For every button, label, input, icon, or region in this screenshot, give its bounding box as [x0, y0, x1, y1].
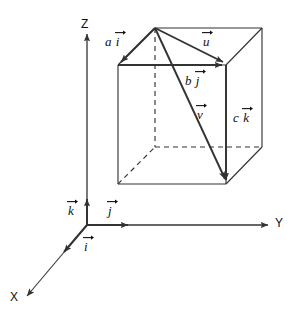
u-vector-label: u: [203, 30, 210, 48]
v-letter: v: [197, 108, 203, 121]
v-glyph: v: [197, 103, 203, 121]
i-hat-letter: i: [84, 240, 88, 253]
u-vector-arrow: [155, 28, 223, 62]
box-edge-bottom-right-diag: [226, 147, 262, 184]
a-i-glyph: i: [116, 30, 120, 48]
j-hat-label: j: [108, 199, 112, 217]
box-vector-arrows: [118, 28, 226, 180]
u-letter: u: [203, 35, 210, 48]
k-hat-label: k: [68, 199, 74, 217]
c-coefficient: c: [233, 110, 239, 125]
vector-diagram-figure: X Y Z k j i a: [0, 0, 298, 316]
k-hat-glyph: k: [68, 199, 74, 217]
i-hat-glyph: i: [84, 235, 88, 253]
c-k-letter: k: [243, 111, 249, 124]
box-edge-hidden-bottom-left-diag: [118, 147, 155, 184]
b-j-letter: j: [196, 74, 200, 87]
x-axis-label: X: [10, 291, 18, 303]
c-k-glyph: k: [243, 106, 249, 124]
u-glyph: u: [203, 30, 210, 48]
a-i-vector-arrow: [121, 28, 155, 62]
figure-canvas: [0, 0, 298, 316]
i-hat-label: i: [84, 235, 88, 253]
b-j-vector-label: b j: [185, 69, 199, 87]
a-coefficient: a: [105, 34, 112, 49]
z-axis-label: Z: [81, 18, 88, 30]
j-hat-letter: j: [108, 204, 112, 217]
c-k-vector-label: c k: [233, 106, 249, 124]
y-axis-label: Y: [275, 217, 283, 229]
k-hat-letter: k: [68, 204, 74, 217]
box-edge-top-right-diag: [226, 28, 262, 65]
a-i-vector-label: a i: [105, 30, 119, 48]
b-j-glyph: j: [196, 69, 200, 87]
v-vector-arrow: [155, 28, 225, 179]
a-i-letter: i: [116, 35, 120, 48]
coordinate-axes: [27, 34, 268, 296]
b-coefficient: b: [185, 73, 192, 88]
v-vector-label: v: [197, 103, 203, 121]
j-hat-glyph: j: [108, 199, 112, 217]
